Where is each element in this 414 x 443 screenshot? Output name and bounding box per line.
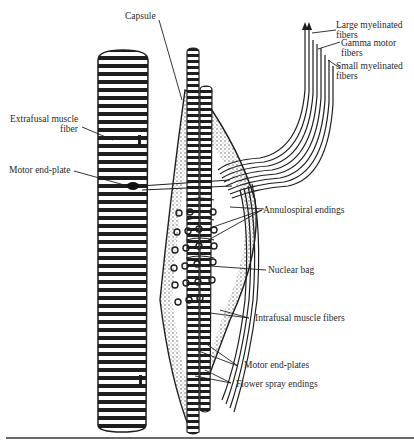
label-annulospiral-endings: Annulospiral endings: [263, 205, 345, 215]
label-extrafusal-muscle-fiber: Extrafusal muscle fiber: [10, 114, 78, 134]
label-intrafusal-muscle-fibers: Intrafusal muscle fibers: [255, 313, 345, 323]
label-motor-end-plate: Motor end-plate: [9, 165, 70, 175]
label-large-myelinated-fibers: Large myelinated fibers: [336, 20, 403, 40]
label-small-myelinated-line1: Small myelinated: [336, 61, 403, 71]
label-gamma-motor-line2: fibers: [341, 48, 396, 58]
label-extrafusal-line2: fiber: [10, 124, 78, 134]
fiber-arrowheads: [302, 22, 312, 30]
label-gamma-motor-line1: Gamma motor: [341, 38, 396, 48]
label-extrafusal-line1: Extrafusal muscle: [10, 114, 78, 124]
label-capsule: Capsule: [125, 11, 156, 21]
label-motor-end-plates: Motor end-plates: [244, 360, 309, 370]
label-flower-spray-endings: Flower spray endings: [236, 379, 318, 389]
label-nuclear-bag: Nuclear bag: [268, 265, 314, 275]
label-large-myelinated-line1: Large myelinated: [336, 20, 403, 30]
label-small-myelinated-line2: fibers: [336, 71, 403, 81]
extrafusal-muscle-fiber: [98, 50, 148, 432]
bottom-rule: [6, 437, 414, 439]
intrafusal-fibers: [187, 48, 212, 434]
label-small-myelinated-fibers: Small myelinated fibers: [336, 61, 403, 81]
label-gamma-motor-fibers: Gamma motor fibers: [341, 38, 396, 58]
